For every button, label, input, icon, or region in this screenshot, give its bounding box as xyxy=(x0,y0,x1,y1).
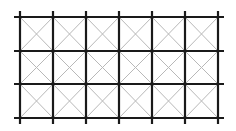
grid-lines xyxy=(14,11,224,124)
cross-hatched-grid xyxy=(0,0,236,131)
